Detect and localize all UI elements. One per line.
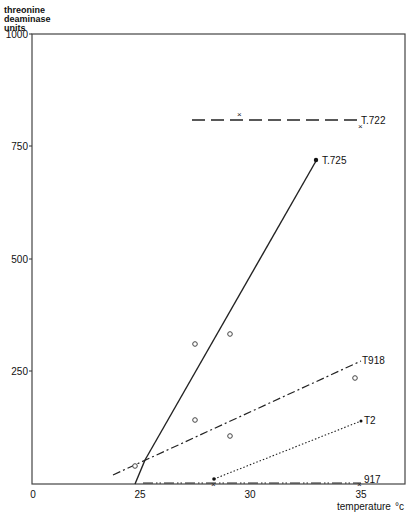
x-tick-35: 35 bbox=[355, 489, 367, 500]
circle-marker-icon bbox=[353, 376, 358, 381]
series-t918: T918 bbox=[113, 355, 385, 475]
chart: threonine deaminase units 1000 750 500 2… bbox=[0, 0, 416, 515]
circle-markers bbox=[133, 332, 358, 469]
series-917: × × 917 bbox=[143, 474, 381, 489]
x-tick-25: 25 bbox=[134, 489, 146, 500]
dot-marker-icon bbox=[314, 158, 318, 162]
x-marker-icon: × bbox=[211, 480, 216, 489]
x-marker-icon: × bbox=[237, 110, 242, 119]
label-t2: T2 bbox=[364, 415, 376, 426]
x-axis-label: temperature bbox=[337, 501, 391, 512]
dot-marker-icon bbox=[360, 420, 363, 423]
y-axis: 1000 750 500 250 bbox=[6, 29, 32, 377]
series-t725: T.725 bbox=[135, 155, 347, 484]
y-tick-1000: 1000 bbox=[6, 29, 29, 40]
x-axis: 0 25 30 35 temperature °c bbox=[30, 489, 404, 512]
circle-marker-icon bbox=[193, 342, 198, 347]
circle-marker-icon bbox=[228, 332, 233, 337]
x-tick-0: 0 bbox=[30, 489, 36, 500]
x-marker-icon: × bbox=[357, 480, 362, 489]
y-tick-750: 750 bbox=[11, 141, 28, 152]
label-t725: T.725 bbox=[322, 155, 347, 166]
circle-marker-icon bbox=[133, 464, 138, 469]
label-t918: T918 bbox=[362, 355, 385, 366]
x-tick-30: 30 bbox=[244, 489, 256, 500]
y-tick-250: 250 bbox=[11, 366, 28, 377]
series-t722: × × T.722 bbox=[192, 110, 386, 131]
y-tick-500: 500 bbox=[11, 254, 28, 265]
x-axis-unit: °c bbox=[395, 501, 404, 512]
series-t2: T2 bbox=[212, 415, 376, 481]
label-917: 917 bbox=[364, 474, 381, 485]
circle-marker-icon bbox=[193, 418, 198, 423]
plot-frame bbox=[32, 34, 405, 484]
label-t722: T.722 bbox=[361, 115, 386, 126]
circle-marker-icon bbox=[228, 434, 233, 439]
